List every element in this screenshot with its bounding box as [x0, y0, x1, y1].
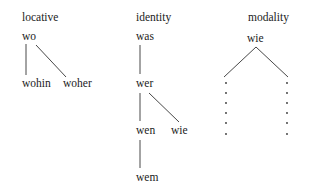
tree-edges	[0, 0, 314, 194]
edge-wie-right	[256, 47, 288, 77]
edge-wo-woher	[36, 45, 66, 77]
edge-wer-wie	[149, 93, 179, 122]
edge-wie-left	[224, 47, 256, 77]
dotted-branches	[225, 82, 288, 135]
